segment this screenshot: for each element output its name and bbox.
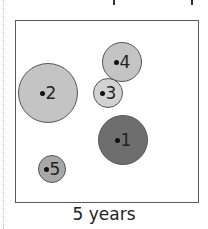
bubble-2: 2 <box>18 63 78 123</box>
bubble-label: 2 <box>40 85 57 102</box>
bubble-3: 3 <box>93 78 123 108</box>
bubble-number: 4 <box>120 54 131 71</box>
bubble-label: 4 <box>114 54 131 71</box>
bubble-center-dot-icon <box>100 91 105 96</box>
bubble-label: 1 <box>115 132 132 149</box>
bubble-center-dot-icon <box>115 138 120 143</box>
diagram-caption: 5 years <box>0 204 208 224</box>
bubble-number: 1 <box>121 132 132 149</box>
cropped-text-fragment <box>113 0 115 5</box>
bubble-4: 4 <box>102 42 142 82</box>
bubble-center-dot-icon <box>44 167 49 172</box>
cropped-text-fragment <box>191 0 193 5</box>
bubble-1: 1 <box>98 115 148 165</box>
bubble-center-dot-icon <box>114 60 119 65</box>
dotted-margin-rule <box>3 0 4 229</box>
bubble-label: 3 <box>100 85 117 102</box>
bubble-number: 2 <box>46 85 57 102</box>
bubble-label: 5 <box>44 161 61 178</box>
bubble-5: 5 <box>38 155 66 183</box>
bubble-number: 5 <box>50 161 61 178</box>
bubble-center-dot-icon <box>40 91 45 96</box>
bubble-number: 3 <box>106 85 117 102</box>
